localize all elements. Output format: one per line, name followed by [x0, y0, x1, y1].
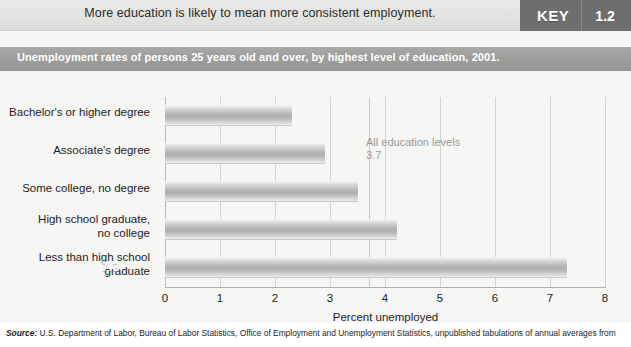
key-badge-label: KEY — [537, 7, 569, 24]
category-axis: Bachelor's or higher degree Associate's … — [0, 97, 158, 287]
x-tick-label: 4 — [375, 292, 395, 304]
gridline-8 — [605, 97, 606, 287]
category-label: Associate's degree — [0, 144, 150, 158]
page-header: More education is likely to mean more co… — [0, 0, 631, 31]
x-tick-label: 1 — [210, 292, 230, 304]
category-label: Bachelor's or higher degree — [0, 106, 150, 120]
source-prefix: Source: — [6, 328, 37, 338]
key-badge-number: 1.2 — [595, 8, 614, 24]
bar — [165, 257, 567, 278]
reference-line-annotation: All education levels 3.7 — [366, 136, 461, 162]
bar — [165, 219, 397, 240]
category-label: High school graduate, no college — [0, 213, 150, 240]
x-tick-label: 6 — [485, 292, 505, 304]
chart-subtitle-bar: Unemployment rates of persons 25 years o… — [0, 47, 631, 71]
key-badge: KEY 1.2 — [520, 0, 631, 31]
x-tick-label: 7 — [540, 292, 560, 304]
x-tick-label: 5 — [430, 292, 450, 304]
bar — [165, 105, 292, 126]
bar — [165, 143, 325, 164]
page-title: More education is likely to mean more co… — [0, 6, 520, 20]
category-label: Less than high school graduate — [0, 251, 150, 278]
x-axis-line — [165, 287, 606, 288]
x-tick-label: 3 — [320, 292, 340, 304]
bar — [165, 181, 358, 202]
x-axis-title: Percent unemployed — [165, 311, 606, 323]
x-tick-label: 2 — [265, 292, 285, 304]
x-tick-label: 0 — [155, 292, 175, 304]
x-tick-label: 8 — [595, 292, 615, 304]
category-label: Some college, no degree — [0, 182, 150, 196]
chart-subtitle: Unemployment rates of persons 25 years o… — [17, 51, 500, 63]
source-text: U.S. Department of Labor, Bureau of Labo… — [37, 328, 616, 338]
key-badge-divider — [581, 0, 582, 31]
chart-container: Unemployment rates of persons 25 years o… — [0, 31, 631, 323]
source-note: Source: U.S. Department of Labor, Bureau… — [6, 328, 631, 338]
plot-area: 2.3 2.9 3.5 4.2 7.3 — [165, 97, 606, 287]
bar-value-label: 7.3 — [102, 260, 120, 274]
